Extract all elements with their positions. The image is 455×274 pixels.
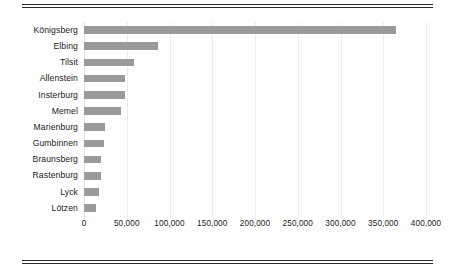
bar-row: Gumbinnen: [0, 135, 455, 151]
bar-row: Tilsit: [0, 54, 455, 70]
category-label: Gumbinnen: [0, 139, 78, 148]
x-tick-label: 400,000: [411, 219, 441, 228]
x-tick-label: 50,000: [114, 219, 140, 228]
bar-row: Elbing: [0, 38, 455, 54]
bar-track: [84, 168, 426, 184]
plot-area: KönigsbergElbingTilsitAllensteinInsterbu…: [0, 22, 455, 234]
bar-track: [84, 200, 426, 216]
category-label: Allenstein: [0, 74, 78, 83]
category-label: Elbing: [0, 42, 78, 51]
bar-track: [84, 71, 426, 87]
bar-track: [84, 119, 426, 135]
x-tick-label: 0: [82, 219, 87, 228]
bar-track: [84, 103, 426, 119]
bar-row: Braunsberg: [0, 152, 455, 168]
bar-rows: KönigsbergElbingTilsitAllensteinInsterbu…: [0, 22, 455, 216]
x-tick-label: 350,000: [368, 219, 398, 228]
x-tick-label: 150,000: [197, 219, 227, 228]
bar-chart-figure: KönigsbergElbingTilsitAllensteinInsterbu…: [0, 0, 455, 274]
category-label: Tilsit: [0, 58, 78, 67]
bar: [84, 140, 104, 148]
category-label: Memel: [0, 107, 78, 116]
bar-row: Rastenburg: [0, 168, 455, 184]
top-rule-line-2: [22, 7, 433, 8]
top-rule-line-1: [22, 4, 433, 5]
x-tick-label: 300,000: [325, 219, 355, 228]
bar-row: Königsberg: [0, 22, 455, 38]
bar-row: Allenstein: [0, 71, 455, 87]
bar: [84, 42, 158, 50]
bar: [84, 172, 101, 180]
bar: [84, 123, 105, 131]
bar: [84, 91, 125, 99]
bar-track: [84, 22, 426, 38]
x-axis: 050,000100,000150,000200,000250,000300,0…: [0, 219, 455, 234]
category-label: Braunsberg: [0, 155, 78, 164]
top-double-rule: [22, 4, 433, 9]
bottom-rule-line-2: [22, 263, 433, 264]
category-label: Marienburg: [0, 123, 78, 132]
bar-track: [84, 152, 426, 168]
bar-track: [84, 184, 426, 200]
bottom-double-rule: [22, 260, 433, 265]
category-label: Lyck: [0, 188, 78, 197]
bar: [84, 26, 396, 34]
bar: [84, 156, 101, 164]
bar: [84, 188, 99, 196]
bar: [84, 204, 96, 212]
category-label: Insterburg: [0, 91, 78, 100]
bar-track: [84, 38, 426, 54]
x-tick-label: 100,000: [154, 219, 184, 228]
category-label: Königsberg: [0, 26, 78, 35]
category-label: Rastenburg: [0, 171, 78, 180]
bar-track: [84, 54, 426, 70]
bar: [84, 107, 121, 115]
bar-row: Memel: [0, 103, 455, 119]
bar-row: Lyck: [0, 184, 455, 200]
bar: [84, 59, 134, 67]
bar-track: [84, 87, 426, 103]
bar-row: Insterburg: [0, 87, 455, 103]
bar: [84, 75, 125, 83]
bar-row: Marienburg: [0, 119, 455, 135]
bar-track: [84, 135, 426, 151]
x-tick-label: 250,000: [283, 219, 313, 228]
bottom-rule-line-1: [22, 260, 433, 261]
bar-row: Lötzen: [0, 200, 455, 216]
category-label: Lötzen: [0, 204, 78, 213]
x-tick-label: 200,000: [240, 219, 270, 228]
